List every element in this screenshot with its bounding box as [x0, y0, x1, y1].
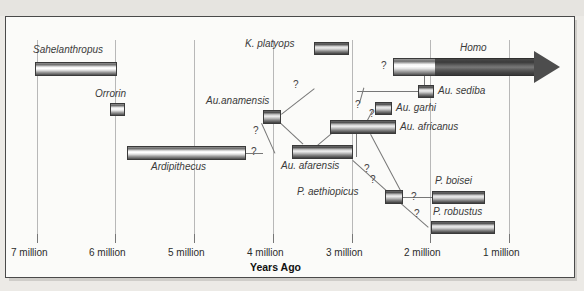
uncertainty-marker-africanus-aethiopicus: ? [364, 163, 370, 174]
connector-africanus-sediba-h [357, 91, 418, 92]
bar-ardipithecus[interactable] [127, 146, 246, 160]
tick-2mya [430, 234, 431, 243]
bar-homo-dark-segment[interactable] [435, 58, 535, 76]
plot-area: 7 million 6 million 5 million 4 million … [0, 0, 584, 291]
bar-sahelanthropus[interactable] [35, 62, 117, 76]
tick-7mya [37, 234, 38, 243]
tick-6mya [115, 234, 116, 243]
bar-p-aethiopicus[interactable] [385, 190, 403, 204]
tick-5mya [194, 234, 195, 243]
uncertainty-marker-ardipithecus-anamensis: ? [251, 146, 257, 157]
bar-p-boisei[interactable] [432, 191, 485, 204]
bar-au-africanus[interactable] [330, 120, 396, 134]
figure-root: 7 million 6 million 5 million 4 million … [0, 0, 584, 291]
label-homo: Homo [460, 42, 487, 53]
axis-tick-label-6mya: 6 million [89, 247, 126, 258]
bar-au-sediba[interactable] [418, 85, 434, 98]
homo-arrow-head-icon [534, 51, 560, 83]
uncertainty-marker-aethiopicus-robustus: ? [414, 208, 420, 219]
connector-aethiopicus-boisei [402, 197, 433, 198]
label-ardipithecus: Ardipithecus [151, 161, 206, 172]
bar-au-anamensis[interactable] [263, 110, 281, 124]
connector-anamensis-platyops [281, 88, 315, 115]
bar-homo-light-segment[interactable] [393, 58, 436, 76]
label-sahelanthropus: Sahelanthropus [33, 44, 103, 55]
label-au-garhi: Au. garhi [396, 102, 436, 113]
connector-anamensis-afarensis [279, 122, 303, 145]
label-orrorin: Orrorin [95, 88, 126, 99]
bar-k-platyops[interactable] [314, 42, 349, 55]
label-au-afarensis: Au. afarensis [281, 160, 339, 171]
label-au-africanus: Au. africanus [400, 121, 458, 132]
label-k-platyops: K. platyops [245, 38, 294, 49]
gridline-4mya [273, 40, 274, 243]
axis-tick-label-5mya: 5 million [168, 247, 205, 258]
connector-africanus-sediba-v [356, 133, 357, 157]
label-p-robustus: P. robustus [433, 206, 482, 217]
uncertainty-marker-anamensis-base: ? [253, 125, 259, 136]
uncertainty-marker-africanus-garhi: ? [369, 108, 375, 119]
tick-4mya [273, 234, 274, 243]
label-au-anamensis: Au.anamensis [206, 95, 269, 106]
uncertainty-marker-afarensis-aethiopicus: ? [370, 174, 376, 185]
uncertainty-marker-homo-origin: ? [381, 60, 387, 71]
gridline-3mya [352, 40, 353, 243]
axis-title-years-ago: Years Ago [250, 261, 301, 273]
axis-tick-label-7mya: 7 million [11, 247, 48, 258]
bar-au-afarensis[interactable] [292, 145, 353, 159]
axis-tick-label-1mya: 1 million [483, 247, 520, 258]
tick-3mya [352, 234, 353, 243]
bar-p-robustus[interactable] [431, 221, 495, 234]
label-p-boisei: P. boisei [435, 175, 472, 186]
bar-au-garhi[interactable] [375, 102, 392, 115]
gridline-5mya [194, 40, 195, 243]
uncertainty-marker-garhi-homo: ? [355, 99, 361, 110]
label-p-aethiopicus: P. aethiopicus [297, 186, 359, 197]
bar-orrorin[interactable] [110, 103, 125, 116]
uncertainty-marker-platyops-link: ? [293, 79, 299, 90]
axis-tick-label-4mya: 4 million [247, 247, 284, 258]
uncertainty-marker-aethiopicus-boisei: ? [411, 191, 417, 202]
axis-tick-label-3mya: 3 million [326, 247, 363, 258]
tick-1mya [509, 234, 510, 243]
axis-tick-label-2mya: 2 million [404, 247, 441, 258]
label-au-sediba: Au. sediba [438, 85, 485, 96]
